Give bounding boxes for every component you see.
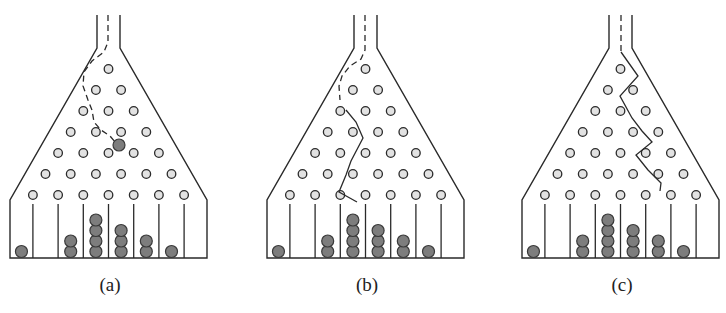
bin-ball — [140, 235, 152, 247]
peg — [629, 170, 638, 179]
peg — [566, 191, 575, 200]
peg — [104, 65, 113, 74]
peg — [667, 191, 676, 200]
peg — [336, 107, 345, 116]
peg — [29, 191, 38, 200]
peg — [104, 149, 113, 158]
peg — [553, 170, 562, 179]
peg — [41, 170, 50, 179]
peg — [311, 191, 320, 200]
peg — [92, 86, 101, 95]
panel-a — [10, 15, 207, 258]
peg — [616, 107, 625, 116]
peg — [654, 128, 663, 137]
peg — [180, 191, 189, 200]
peg — [399, 170, 408, 179]
peg — [323, 170, 332, 179]
peg — [386, 149, 395, 158]
peg — [667, 149, 676, 158]
peg — [374, 170, 383, 179]
peg — [349, 170, 358, 179]
peg — [629, 128, 638, 137]
peg — [616, 149, 625, 158]
bin-ball — [372, 225, 384, 237]
peg — [349, 86, 358, 95]
peg — [591, 149, 600, 158]
peg — [361, 191, 370, 200]
bin-ball — [15, 246, 27, 258]
panel-c — [522, 15, 719, 258]
peg — [142, 128, 151, 137]
peg — [641, 191, 650, 200]
peg — [311, 149, 320, 158]
peg — [129, 107, 138, 116]
peg — [54, 149, 63, 158]
peg — [104, 107, 113, 116]
peg — [117, 86, 126, 95]
peg — [79, 149, 88, 158]
peg — [604, 170, 613, 179]
peg — [437, 191, 446, 200]
galton-board-figure: (a) (b) (c) — [0, 0, 726, 313]
bin-ball — [397, 235, 409, 247]
peg — [424, 170, 433, 179]
bin-ball — [272, 246, 284, 258]
bin-ball — [678, 246, 690, 258]
peg — [386, 191, 395, 200]
peg — [167, 170, 176, 179]
peg — [79, 191, 88, 200]
peg — [117, 170, 126, 179]
bin-ball — [65, 235, 77, 247]
peg — [604, 86, 613, 95]
bin-ball — [115, 225, 127, 237]
bin-ball — [90, 214, 102, 226]
peg — [155, 149, 164, 158]
peg — [591, 107, 600, 116]
peg — [117, 128, 126, 137]
bin-ball — [423, 246, 435, 258]
peg — [286, 191, 295, 200]
peg — [361, 65, 370, 74]
bin-ball — [322, 235, 334, 247]
peg — [629, 86, 638, 95]
bin-ball — [627, 225, 639, 237]
peg — [142, 170, 151, 179]
peg — [578, 128, 587, 137]
peg — [412, 191, 421, 200]
panel-b-caption: (b) — [337, 274, 397, 296]
peg — [541, 191, 550, 200]
panel-b — [267, 15, 464, 258]
bin-ball — [347, 214, 359, 226]
peg — [679, 170, 688, 179]
peg — [604, 128, 613, 137]
peg — [336, 149, 345, 158]
peg — [374, 86, 383, 95]
peg — [386, 107, 395, 116]
bin-ball — [577, 235, 589, 247]
peg — [361, 107, 370, 116]
ball-path-solid — [620, 52, 661, 191]
peg — [412, 149, 421, 158]
bin-ball — [166, 246, 178, 258]
peg — [641, 107, 650, 116]
falling-ball — [113, 139, 125, 151]
peg — [361, 149, 370, 158]
peg — [374, 128, 383, 137]
peg — [298, 170, 307, 179]
panel-a-caption: (a) — [80, 274, 140, 296]
peg — [323, 128, 332, 137]
bin-ball — [527, 246, 539, 258]
peg — [155, 191, 164, 200]
peg — [349, 128, 358, 137]
panel-c-caption: (c) — [592, 274, 652, 296]
bin-ball — [652, 235, 664, 247]
peg — [129, 149, 138, 158]
ball-path-dashed — [83, 15, 116, 143]
peg — [591, 191, 600, 200]
peg — [54, 191, 63, 200]
peg — [129, 191, 138, 200]
peg — [92, 170, 101, 179]
peg — [79, 107, 88, 116]
peg — [566, 149, 575, 158]
peg — [616, 191, 625, 200]
